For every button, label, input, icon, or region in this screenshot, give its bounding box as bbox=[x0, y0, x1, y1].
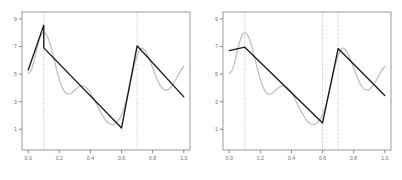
right-smooth-curve bbox=[229, 33, 385, 125]
y-tick-label-4: 1 bbox=[215, 126, 218, 132]
x-tick-label-2: 0.4 bbox=[87, 155, 94, 161]
left-reference-lines bbox=[44, 12, 137, 150]
x-tick-label-3: 0.6 bbox=[118, 155, 125, 161]
y-tick-label-2: 5 bbox=[215, 71, 218, 77]
right-y-axis-ticks bbox=[220, 19, 223, 129]
x-tick-label-4: 0.8 bbox=[149, 155, 156, 161]
y-tick-label-2: 5 bbox=[14, 71, 17, 77]
y-tick-label-3: 3 bbox=[14, 99, 17, 105]
left-y-tick-labels: 97531 bbox=[14, 16, 17, 132]
chart-panel-right: 0.00.20.40.60.81.0 97531 bbox=[201, 0, 402, 180]
x-tick-label-0: 0.0 bbox=[226, 155, 233, 161]
left-plot-frame bbox=[22, 12, 190, 150]
two-panel-figure: 0.00.20.40.60.81.0 97531 0.00.20.40.60.8… bbox=[0, 0, 402, 180]
x-tick-label-0: 0.0 bbox=[25, 155, 32, 161]
right-plot-svg: 0.00.20.40.60.81.0 97531 bbox=[201, 0, 402, 180]
x-tick-label-5: 1.0 bbox=[180, 155, 187, 161]
chart-panel-left: 0.00.20.40.60.81.0 97531 bbox=[0, 0, 201, 180]
y-tick-label-4: 1 bbox=[14, 126, 17, 132]
x-tick-label-2: 0.4 bbox=[288, 155, 295, 161]
right-y-tick-labels: 97531 bbox=[215, 16, 218, 132]
x-tick-label-4: 0.8 bbox=[350, 155, 357, 161]
left-plot-svg: 0.00.20.40.60.81.0 97531 bbox=[0, 0, 201, 180]
y-tick-label-3: 3 bbox=[215, 99, 218, 105]
x-tick-label-1: 0.2 bbox=[56, 155, 63, 161]
y-tick-label-0: 9 bbox=[215, 16, 218, 22]
y-tick-label-1: 7 bbox=[215, 43, 218, 49]
x-tick-label-1: 0.2 bbox=[257, 155, 264, 161]
left-x-axis-ticks bbox=[28, 150, 184, 153]
y-tick-label-0: 9 bbox=[14, 16, 17, 22]
x-tick-label-5: 1.0 bbox=[381, 155, 388, 161]
right-plot-frame bbox=[223, 12, 391, 150]
y-tick-label-1: 7 bbox=[14, 43, 17, 49]
x-tick-label-3: 0.6 bbox=[319, 155, 326, 161]
left-y-axis-ticks bbox=[19, 19, 22, 129]
right-x-tick-labels: 0.00.20.40.60.81.0 bbox=[226, 155, 389, 161]
left-smooth-curve bbox=[28, 33, 184, 125]
left-piecewise-curve bbox=[28, 25, 184, 128]
right-x-axis-ticks bbox=[229, 150, 385, 153]
right-reference-lines bbox=[245, 12, 338, 150]
left-x-tick-labels: 0.00.20.40.60.81.0 bbox=[25, 155, 188, 161]
